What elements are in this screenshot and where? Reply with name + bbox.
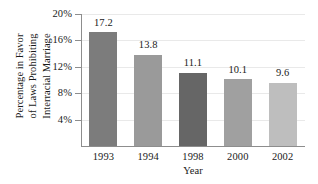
bar-group: 17.2 bbox=[89, 14, 117, 146]
x-axis-line bbox=[81, 146, 305, 147]
y-axis-title-line-2: of Laws Prohibiting bbox=[26, 34, 39, 119]
bar[interactable] bbox=[224, 79, 252, 146]
bar[interactable] bbox=[179, 73, 207, 146]
bar-value-label: 10.1 bbox=[228, 65, 247, 76]
y-tick-label: 12% bbox=[32, 62, 72, 73]
y-tick-mark bbox=[75, 93, 81, 94]
bar-value-label: 17.2 bbox=[94, 18, 113, 29]
y-tick-mark bbox=[75, 67, 81, 68]
x-tick-label: 2000 bbox=[215, 152, 260, 163]
y-axis-title: Percentage in Favor of Laws Prohibiting … bbox=[11, 5, 55, 147]
y-tick-label: 4% bbox=[32, 115, 72, 126]
y-axis-title-line-3: Interracial Marriage bbox=[40, 33, 53, 118]
x-tick-label: 1993 bbox=[81, 152, 126, 163]
bar-value-label: 13.8 bbox=[139, 40, 158, 51]
bar-group: 11.1 bbox=[179, 14, 207, 146]
bar-group: 9.6 bbox=[269, 14, 297, 146]
y-tick-label: 20% bbox=[32, 9, 72, 20]
x-tick-label: 1994 bbox=[126, 152, 171, 163]
bar-value-label: 9.6 bbox=[276, 68, 289, 79]
y-tick-mark bbox=[75, 14, 81, 15]
bar[interactable] bbox=[269, 83, 297, 146]
y-tick-label: 16% bbox=[32, 35, 72, 46]
x-axis-title: Year bbox=[81, 166, 305, 177]
bar-value-label: 11.1 bbox=[184, 58, 202, 69]
bar-chart: Percentage in Favor of Laws Prohibiting … bbox=[0, 0, 318, 184]
y-tick-label: 8% bbox=[32, 88, 72, 99]
x-tick-label: 1998 bbox=[171, 152, 216, 163]
bar[interactable] bbox=[134, 55, 162, 146]
bar-group: 10.1 bbox=[224, 14, 252, 146]
y-tick-mark bbox=[75, 40, 81, 41]
y-tick-mark bbox=[75, 120, 81, 121]
y-axis-title-line-1: Percentage in Favor bbox=[13, 34, 26, 119]
bar[interactable] bbox=[89, 32, 117, 146]
x-tick-label: 2002 bbox=[260, 152, 305, 163]
y-axis-line bbox=[81, 14, 82, 147]
bar-group: 13.8 bbox=[134, 14, 162, 146]
